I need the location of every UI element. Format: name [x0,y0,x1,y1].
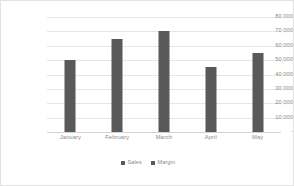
plot-area [47,17,281,132]
legend-entry[interactable]: Sales [121,160,142,166]
x-axis-tick-label: April [205,135,217,141]
y-axis-tick-label: 80,000 [251,14,293,20]
bar-group [94,17,141,132]
legend-entry[interactable]: Margin [151,160,175,166]
legend-label: Margin [157,160,175,166]
legend-swatch-icon [151,161,155,165]
y-axis-tick-label: 20,000 [251,100,293,106]
x-axis-tick-label: May [252,135,263,141]
bar[interactable] [112,39,123,132]
bar-group [47,17,94,132]
gridline [47,132,281,133]
bars-layer [47,17,281,132]
bar[interactable] [158,31,169,132]
legend-label: Sales [127,160,142,166]
bar-group [141,17,188,132]
y-axis-tick-label: 40,000 [251,72,293,78]
x-axis-tick-label: February [105,135,129,141]
chart-legend: SalesMargin [1,160,294,166]
y-axis-tick-label: 10,000 [251,115,293,121]
y-axis-tick-label: 30,000 [251,86,293,92]
x-axis-tick-label: March [156,135,173,141]
x-axis-tick-label: January [60,135,81,141]
y-axis-tick-label: 70,000 [251,29,293,35]
legend-swatch-icon [121,161,125,165]
bar[interactable] [205,67,216,132]
y-axis-tick-label: 50,000 [251,57,293,63]
chart-container: -10,00020,00030,00040,00050,00060,00070,… [0,0,294,186]
bar-group [187,17,234,132]
bar[interactable] [65,60,76,132]
x-axis-tick-labels: JanuaryFebruaryMarchAprilMay [47,135,281,147]
y-axis-tick-label: 60,000 [251,43,293,49]
